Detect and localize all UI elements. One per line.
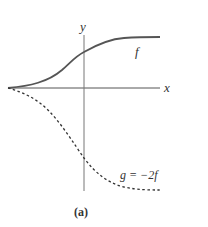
y-axis-label: y (78, 19, 86, 34)
curve-g-label: g = −2f (120, 168, 159, 182)
x-axis-label: x (163, 80, 170, 95)
curve-f-label: f (135, 44, 141, 59)
function-transformation-figure: y x f g = −2f (a) (0, 0, 208, 227)
figure-caption: (a) (74, 205, 88, 219)
